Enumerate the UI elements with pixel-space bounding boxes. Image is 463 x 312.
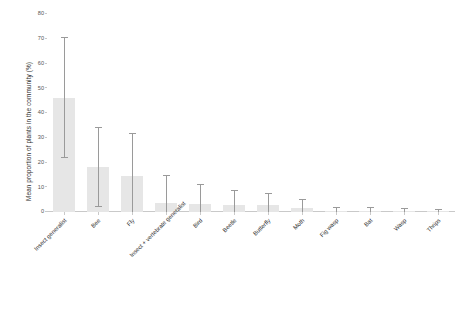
x-axis-category-label: Thrips	[401, 218, 442, 259]
x-axis-tick-mark	[370, 212, 371, 215]
error-bar	[166, 176, 167, 212]
y-axis-tick-mark	[45, 211, 48, 212]
error-bar-cap-top	[435, 209, 442, 210]
x-axis-tick-mark	[98, 212, 99, 215]
y-axis-tick-label: 50	[30, 86, 44, 92]
y-axis-tick-mark	[45, 162, 48, 163]
y-axis-tick-label: 30	[30, 135, 44, 141]
y-axis-tick-mark	[45, 38, 48, 39]
y-axis-title: Mean proportion of plants in the communi…	[25, 42, 32, 222]
y-axis-tick-mark	[45, 112, 48, 113]
error-bar-cap-top	[61, 37, 68, 38]
y-axis-tick-label: 20	[30, 160, 44, 166]
x-axis-tick-mark	[438, 212, 439, 215]
x-axis-tick-mark	[200, 212, 201, 215]
x-axis-tick-mark	[404, 212, 405, 215]
x-axis-tick-mark	[302, 212, 303, 215]
y-axis-tick-label: 40	[30, 110, 44, 116]
bar-chart-figure: Mean proportion of plants in the communi…	[0, 0, 463, 312]
error-bar-cap-top	[299, 199, 306, 200]
error-bar	[64, 38, 65, 158]
error-bar-cap-top	[95, 127, 102, 128]
error-bar-cap-top	[129, 133, 136, 134]
y-axis-tick-mark	[45, 87, 48, 88]
error-bar-cap-bottom	[95, 206, 102, 207]
error-bar-cap-top	[265, 193, 272, 194]
error-bar	[200, 185, 201, 212]
error-bar	[132, 134, 133, 212]
error-bar-cap-top	[401, 208, 408, 209]
error-bar	[268, 194, 269, 212]
error-bar-cap-top	[367, 207, 374, 208]
error-bar	[98, 128, 99, 207]
error-bar-cap-top	[197, 184, 204, 185]
error-bar-cap-top	[163, 175, 170, 176]
error-bar-cap-top	[231, 190, 238, 191]
y-axis-tick-label: 70	[30, 36, 44, 42]
y-axis-tick-label: 80	[30, 11, 44, 17]
x-axis-tick-mark	[234, 212, 235, 215]
y-axis-tick-label: 10	[30, 185, 44, 191]
x-axis-tick-mark	[132, 212, 133, 215]
y-axis-tick-mark	[45, 137, 48, 138]
y-axis-tick-mark	[45, 13, 48, 14]
error-bar-cap-top	[333, 207, 340, 208]
y-axis-tick-label: 60	[30, 61, 44, 67]
y-axis-tick-mark	[45, 186, 48, 187]
x-axis-tick-mark	[268, 212, 269, 215]
x-axis-tick-mark	[336, 212, 337, 215]
plot-area: 01020304050607080Insect generalistBeeFly…	[47, 14, 455, 212]
y-axis-tick-label: 0	[30, 209, 44, 215]
error-bar-cap-bottom	[61, 157, 68, 158]
y-axis-tick-mark	[45, 63, 48, 64]
x-axis-tick-mark	[64, 212, 65, 215]
error-bar	[302, 200, 303, 212]
error-bar	[234, 191, 235, 212]
